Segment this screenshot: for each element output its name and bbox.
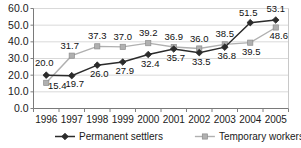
y-axis-tick-label: 30.0 <box>8 52 29 64</box>
data-label-temporary-workers: 36.0 <box>190 33 209 44</box>
x-axis-tick-label: 2005 <box>265 114 288 125</box>
x-axis-tick-label: 2000 <box>137 114 160 125</box>
data-label-temporary-workers: 37.3 <box>88 30 107 41</box>
series-point-permanent <box>272 17 279 24</box>
data-label-permanent-settlers: 19.7 <box>66 78 85 89</box>
y-axis-tick-label: 60.0 <box>8 2 29 14</box>
data-label-permanent-settlers: 53.1 <box>267 3 286 14</box>
y-axis-ticks: 60.050.040.030.020.010.00.0 <box>8 2 29 114</box>
x-axis-tick-label: 2004 <box>239 114 262 125</box>
series-point-temporary <box>120 44 125 49</box>
data-label-permanent-settlers: 32.4 <box>141 58 160 69</box>
data-labels: 15.431.737.337.039.236.936.038.539.548.6… <box>35 3 288 91</box>
data-label-temporary-workers: 31.7 <box>61 40 80 51</box>
data-label-temporary-workers: 39.5 <box>242 46 261 57</box>
legend-marker-permanent-settlers <box>62 133 69 140</box>
data-label-temporary-workers: 48.6 <box>270 30 289 41</box>
chart-canvas: 60.050.040.030.020.010.00.0 199619971998… <box>0 0 301 148</box>
data-label-permanent-settlers: 36.8 <box>218 50 237 61</box>
data-label-temporary-workers: 36.9 <box>165 31 184 42</box>
data-label-permanent-settlers: 33.5 <box>192 56 211 67</box>
x-axis-tick-label: 2002 <box>188 114 211 125</box>
data-label-temporary-workers: 38.5 <box>216 28 235 39</box>
series-point-temporary <box>69 53 74 58</box>
x-axis-tick-label: 1999 <box>112 114 135 125</box>
series-point-temporary <box>248 40 253 45</box>
data-label-permanent-settlers: 26.0 <box>90 68 109 79</box>
y-axis-tick-label: 10.0 <box>8 85 29 97</box>
data-label-permanent-settlers: 35.7 <box>167 52 186 63</box>
y-axis-tick-label: 50.0 <box>8 19 29 31</box>
x-axis-tick-label: 1998 <box>86 114 109 125</box>
x-axis-ticks: 1996199719981999200020012002200320042005 <box>35 114 287 125</box>
series-point-temporary <box>95 44 100 49</box>
data-label-temporary-workers: 39.2 <box>139 27 158 38</box>
x-axis-tick-label: 2001 <box>163 114 186 125</box>
line-chart: 60.050.040.030.020.010.00.0 199619971998… <box>0 0 301 148</box>
data-label-permanent-settlers: 20.0 <box>35 57 54 68</box>
legend-marker-temporary-workers <box>202 134 207 139</box>
legend-label-temporary-workers: Temporary workers <box>219 131 301 142</box>
x-axis-tick-label: 2003 <box>214 114 237 125</box>
y-axis-tick-label: 40.0 <box>8 35 29 47</box>
x-axis-tick-label: 1997 <box>61 114 84 125</box>
data-label-permanent-settlers: 51.5 <box>239 7 258 18</box>
chart-legend: Permanent settlersTemporary workers <box>55 131 301 142</box>
data-label-temporary-workers: 37.0 <box>114 31 133 42</box>
series-point-temporary <box>146 41 151 46</box>
legend-label-permanent-settlers: Permanent settlers <box>79 131 163 142</box>
series-point-permanent <box>43 72 50 79</box>
y-axis-tick-label: 20.0 <box>8 69 29 81</box>
y-axis-tick-label: 0.0 <box>14 102 29 114</box>
x-axis-tick-label: 1996 <box>35 114 58 125</box>
data-label-temporary-workers: 15.4 <box>48 80 67 91</box>
data-label-permanent-settlers: 27.9 <box>116 65 135 76</box>
